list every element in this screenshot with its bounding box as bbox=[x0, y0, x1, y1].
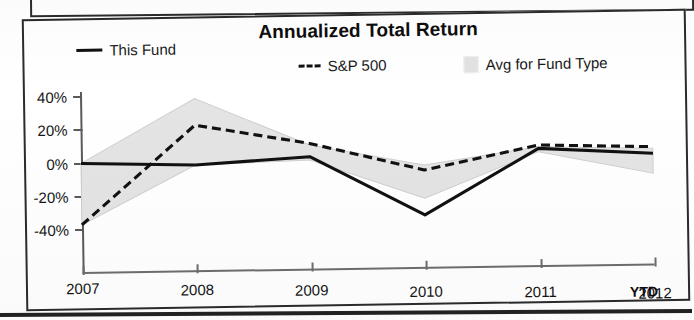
x-axis-tick-label: 2009 bbox=[295, 281, 329, 298]
x-axis-tick-mark bbox=[197, 264, 199, 273]
solid-line-icon bbox=[76, 49, 102, 52]
x-axis-tick-mark bbox=[311, 262, 313, 271]
x-axis-line bbox=[83, 263, 655, 273]
chart-title: Annualized Total Return bbox=[223, 18, 513, 44]
y-axis-tick-mark bbox=[75, 196, 84, 198]
legend-label-sp500: S&P 500 bbox=[327, 56, 386, 74]
legend-item-this-fund: This Fund bbox=[76, 41, 176, 59]
dashed-line-icon bbox=[299, 64, 321, 67]
legend-item-sp500: S&P 500 bbox=[298, 56, 386, 74]
series-line-sp500 bbox=[80, 118, 653, 225]
x-axis-tick-label: 2011 bbox=[524, 283, 557, 300]
y-axis-tick-mark bbox=[73, 96, 82, 98]
y-axis-tick-label: -20% bbox=[8, 188, 68, 206]
series-line-this-fund bbox=[81, 147, 654, 220]
y-axis-tick-mark bbox=[74, 162, 83, 164]
y-axis-tick-mark bbox=[74, 129, 83, 131]
x-axis-tick-mark bbox=[540, 259, 542, 268]
x-axis-tick-label: 2008 bbox=[180, 281, 214, 298]
x-axis-tick-mark bbox=[426, 261, 428, 270]
x-axis-ytd-label: YTD bbox=[630, 283, 658, 299]
y-axis-tick-label: 40% bbox=[7, 89, 67, 107]
x-axis-tick-label: 2007 bbox=[66, 280, 100, 297]
chart-plot-area: Annualized Total Return This Fund S&P 50… bbox=[0, 0, 694, 320]
series-band-avg-fund-type bbox=[80, 92, 654, 225]
legend-label-this-fund: This Fund bbox=[109, 41, 176, 59]
band-swatch-icon bbox=[463, 56, 478, 73]
x-axis-tick-label: 2010 bbox=[409, 282, 443, 299]
y-axis-tick-label: 20% bbox=[7, 122, 67, 140]
y-axis-line bbox=[80, 92, 85, 274]
legend-item-avg-fund-type: Avg for Fund Type bbox=[463, 54, 607, 73]
x-axis-tick-mark bbox=[83, 266, 85, 275]
x-axis-tick-mark bbox=[654, 257, 656, 266]
legend-label-avg-fund-type: Avg for Fund Type bbox=[485, 54, 607, 73]
y-axis-tick-label: -40% bbox=[9, 222, 69, 240]
y-axis-tick-label: 0% bbox=[8, 155, 68, 173]
y-axis-tick-mark bbox=[75, 229, 84, 231]
